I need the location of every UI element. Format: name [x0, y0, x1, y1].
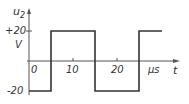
y-axis-subscript: 2: [20, 11, 25, 20]
y-tick-plus20: +20: [5, 26, 26, 36]
x-tick-20: 20: [111, 65, 124, 75]
x-unit-label: µs: [148, 65, 160, 75]
x-axis-arrow-icon: [173, 59, 180, 63]
y-unit-label: V: [15, 40, 22, 50]
y-tick-minus20: -20: [7, 86, 23, 96]
y-axis-symbol: u: [13, 5, 20, 18]
x-axis-label: t: [173, 65, 177, 76]
x-tick-0: 0: [31, 65, 37, 75]
axes: [26, 8, 180, 95]
x-tick-10: 10: [66, 65, 79, 75]
y-axis-label: u2: [13, 6, 25, 20]
y-axis-arrow-icon: [27, 8, 31, 14]
waveform-diagram: [0, 0, 189, 104]
